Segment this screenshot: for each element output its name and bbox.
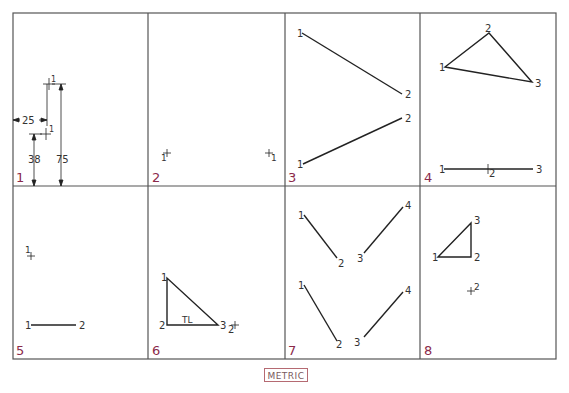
lower-line-a-label-1: 1	[298, 280, 304, 291]
panel-number-7: 7	[288, 343, 296, 358]
lower-line-b-label-4: 4	[405, 285, 411, 296]
point-label-upper: 1	[51, 75, 56, 84]
triangle-label-2: 2	[474, 252, 480, 263]
panel-3	[302, 33, 402, 164]
triangle-label-2: 2	[485, 23, 491, 34]
upper-line-a-label-1: 1	[298, 210, 304, 221]
point-label-2: 2	[474, 282, 480, 292]
edge-label-2: 2	[489, 168, 495, 179]
line-b-label-1: 1	[297, 159, 303, 170]
panel-number-6: 6	[152, 343, 160, 358]
true-length-label: TL	[181, 315, 193, 325]
point-label-right: 1	[271, 153, 277, 163]
line-label-2: 2	[79, 320, 85, 331]
triangle-label-1: 1	[439, 62, 445, 73]
panel-2	[163, 149, 273, 157]
triangle-label-1: 1	[432, 252, 438, 263]
panel-7	[304, 207, 403, 341]
upper-line-b-label-3: 3	[357, 253, 363, 264]
triangle-label-2: 2	[159, 320, 165, 331]
panel-4	[444, 33, 533, 174]
upper-line-b-label-4: 4	[405, 200, 411, 211]
metric-label: METRIC	[264, 368, 308, 382]
point-label-2: 2	[228, 324, 234, 335]
edge-label-3: 3	[536, 164, 542, 175]
lower-line-b-label-3: 3	[354, 337, 360, 348]
edge-label-1: 1	[439, 164, 445, 175]
point-label-lower: 1	[49, 125, 54, 134]
dimension-25: 25	[22, 115, 35, 126]
upper-line-a-label-2: 2	[338, 258, 344, 269]
panel-number-3: 3	[288, 170, 296, 185]
panel-number-5: 5	[16, 343, 24, 358]
panel-6	[167, 278, 239, 329]
point-label-left: 1	[161, 153, 167, 163]
line-b-label-2: 2	[405, 113, 411, 124]
line-label-1: 1	[25, 320, 31, 331]
point-label-1: 1	[25, 245, 31, 255]
triangle-label-3: 3	[474, 215, 480, 226]
panel-number-2: 2	[152, 170, 160, 185]
triangle-label-3: 3	[220, 320, 226, 331]
drawing-sheet: 1 2 3 4 5 6 7 8 25 38	[0, 0, 569, 393]
panel-number-4: 4	[424, 170, 432, 185]
triangle-label-1: 1	[161, 272, 167, 283]
dimension-38: 38	[28, 154, 41, 165]
dimension-75: 75	[56, 154, 69, 165]
panel-8	[438, 223, 475, 295]
line-a-label-2: 2	[405, 89, 411, 100]
panel-number-1: 1	[16, 170, 24, 185]
line-a-label-1: 1	[297, 28, 303, 39]
grid-frame	[13, 13, 556, 359]
panel-5	[27, 252, 76, 325]
triangle-label-3: 3	[535, 78, 541, 89]
lower-line-a-label-2: 2	[336, 339, 342, 350]
panel-number-8: 8	[424, 343, 432, 358]
